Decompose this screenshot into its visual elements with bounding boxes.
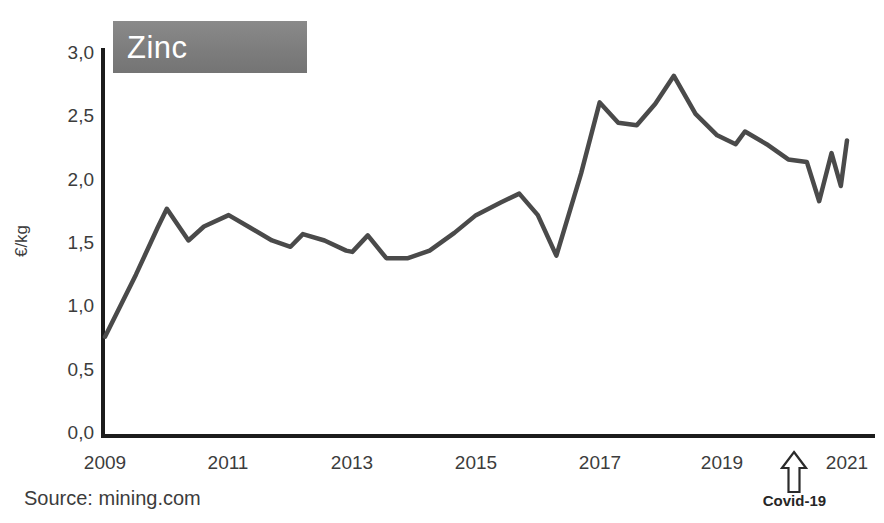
- covid-up-arrow-icon: [779, 450, 809, 494]
- chart-title: Zinc: [113, 32, 188, 63]
- covid-annotation-label: Covid-19: [763, 492, 826, 509]
- chart-title-badge: Zinc: [113, 21, 307, 73]
- data-series-line: [105, 76, 847, 337]
- axis-lines: [103, 50, 873, 436]
- chart-figure: €/kg 0,0 0,5 1,0 1,5 2,0 2,5 3,0 2009 20…: [0, 0, 884, 523]
- source-note: Source: mining.com: [24, 487, 201, 510]
- plot-area: [0, 0, 884, 523]
